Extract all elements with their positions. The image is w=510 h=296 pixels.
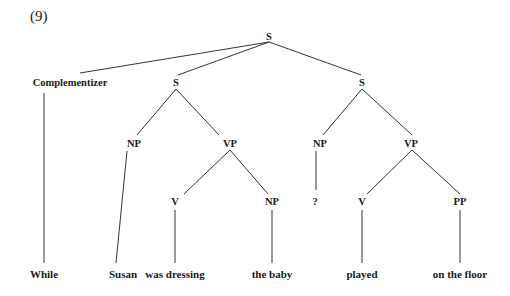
tree-edge xyxy=(176,89,219,135)
tree-node-s1: S xyxy=(173,77,179,88)
tree-node-v1: V xyxy=(171,196,179,207)
tree-edge xyxy=(323,89,362,135)
tree-edge xyxy=(116,151,127,263)
tree-node-s2: S xyxy=(359,77,365,88)
tree-node-vp1: VP xyxy=(223,138,237,149)
tree-edge xyxy=(412,150,460,194)
tree-node-np1: NP xyxy=(127,138,141,149)
tree-edge xyxy=(137,89,176,135)
tree-edge xyxy=(362,89,412,135)
tree-leaf-w2: Susan xyxy=(109,268,137,280)
tree-node-v2: V xyxy=(358,196,366,207)
tree-node-np3: NP xyxy=(313,138,327,149)
tree-leaf-w5: played xyxy=(346,268,377,280)
tree-edge xyxy=(184,150,230,194)
tree-edge xyxy=(80,42,269,73)
tree-node-comp: Complementizer xyxy=(33,77,108,88)
tree-node-np2: NP xyxy=(265,196,279,207)
tree-leaf-w4: the baby xyxy=(252,268,293,280)
tree-node-pp: PP xyxy=(454,196,467,207)
tree-leaf-w1: While xyxy=(30,268,58,280)
tree-node-vp2: VP xyxy=(404,138,418,149)
tree-node-q: ? xyxy=(312,196,317,207)
tree-node-root: S xyxy=(266,31,272,42)
tree-edge xyxy=(367,150,412,194)
tree-edge xyxy=(269,42,361,75)
example-number: (9) xyxy=(30,8,48,25)
tree-edge xyxy=(230,150,268,194)
tree-leaf-w3: was dressing xyxy=(145,268,204,280)
syntax-tree xyxy=(0,0,510,296)
tree-edge xyxy=(178,42,269,75)
tree-edges xyxy=(0,0,510,296)
tree-leaf-w6: on the floor xyxy=(433,268,487,280)
